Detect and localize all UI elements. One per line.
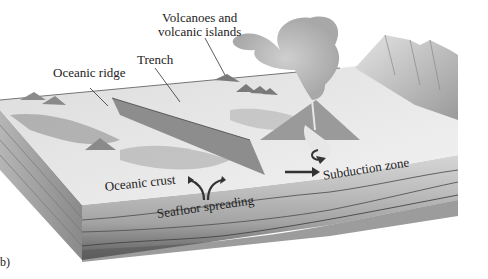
label-oceanic-ridge: Oceanic ridge (53, 66, 126, 80)
label-volcanoes: Volcanoes and volcanic islands (158, 11, 241, 38)
block-diagram (0, 0, 488, 279)
label-volcanoes-line2: volcanic islands (158, 25, 241, 39)
plate-tectonics-diagram: Volcanoes and volcanic islands Trench Oc… (0, 0, 488, 279)
volcanoes-leader (205, 38, 225, 75)
label-trench: Trench (137, 53, 173, 67)
panel-label: b) (0, 256, 10, 269)
label-volcanoes-line1: Volcanoes and (158, 11, 241, 25)
